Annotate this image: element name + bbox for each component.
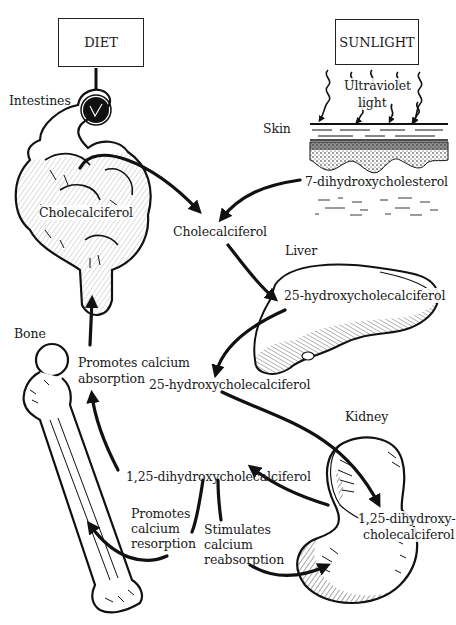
kidney-compound-line2: cholecalciferol — [363, 527, 454, 542]
kidney-label: Kidney — [345, 409, 388, 424]
kidney-compound-line1: 1,25-dihydroxy- — [358, 511, 456, 526]
skin-illustration — [310, 124, 448, 215]
uv-label-line1: Ultraviolet — [344, 78, 411, 93]
circulating-25-hydroxy-label: 25-hydroxycholecalciferol — [149, 377, 310, 392]
liver-illustration — [254, 265, 438, 374]
sunlight-box: SUNLIGHT — [335, 19, 419, 65]
liver-compound-label: 25-hydroxycholecalciferol — [284, 288, 445, 303]
intestines-label: Intestines — [9, 93, 71, 108]
diet-label: DIET — [84, 35, 118, 50]
absorption-line2: absorption — [78, 371, 145, 386]
arrow-absorption-to-intestines — [90, 300, 92, 345]
sunlight-label: SUNLIGHT — [339, 35, 414, 50]
skin-label: Skin — [263, 121, 291, 136]
arrow-to-reabsorption — [218, 480, 221, 520]
arrow-to-absorption — [92, 395, 118, 470]
resorption-line2: calcium — [131, 521, 180, 536]
precursor-skin-label: 7-dihydroxycholesterol — [305, 174, 448, 189]
liver-label: Liver — [285, 243, 317, 258]
central-cholecalciferol-label: Cholecalciferol — [173, 224, 267, 239]
intestines-illustration — [16, 90, 151, 315]
uv-label-line2: light — [358, 95, 387, 110]
reabsorption-line3: reabsorption — [204, 552, 284, 567]
arrow-cholecalciferol-to-liver — [228, 245, 274, 298]
arrow-skin-to-cholecalciferol — [222, 180, 300, 218]
resorption-line1: Promotes — [131, 506, 190, 521]
arrow-to-resorption — [192, 480, 203, 532]
resorption-line3: resorption — [131, 536, 196, 551]
intestine-compound-label: Cholecalciferol — [39, 205, 133, 220]
reabsorption-line1: Stimulates — [204, 522, 271, 537]
bone-label: Bone — [14, 326, 46, 341]
absorption-line1: Promotes calcium — [78, 355, 190, 370]
reabsorption-line2: calcium — [204, 537, 253, 552]
diet-box: DIET — [58, 18, 144, 67]
active-hormone-label: 1,25-dihydroxycholecalciferol — [126, 469, 311, 484]
